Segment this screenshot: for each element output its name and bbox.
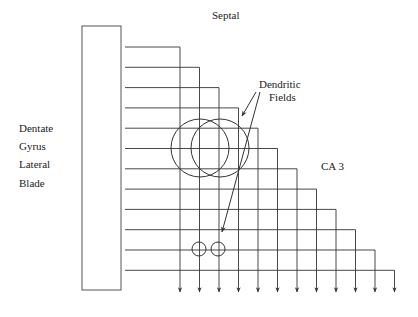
projection-line [125,88,219,292]
projection-line [125,189,317,292]
dentate-ca3-projection-diagram [0,0,418,317]
projection-line [125,209,336,292]
ca3-label: CA 3 [321,161,344,172]
small-dendritic-field [211,242,225,256]
dendritic-field-circles [171,119,249,256]
dendritic-field-pointer-arrows [222,92,260,232]
gyrus-label: Gyrus [19,141,46,152]
lateral-label: Lateral [19,159,50,170]
dentate-gyrus-block [82,26,121,290]
projection-line [125,250,375,292]
blade-label: Blade [19,178,45,189]
pointer-arrow [222,92,260,232]
fields-label: Fields [269,92,296,103]
small-dendritic-field [192,242,206,256]
pointer-arrow [242,92,256,116]
projection-line [125,270,395,292]
projection-line [125,47,180,292]
dendritic-label: Dendritic [259,79,301,90]
projection-line [125,230,356,292]
dentate-label: Dentate [19,123,53,134]
projection-line [125,108,239,292]
projection-line [125,169,297,292]
projection-line [125,67,200,292]
septal-label: Septal [212,10,240,21]
